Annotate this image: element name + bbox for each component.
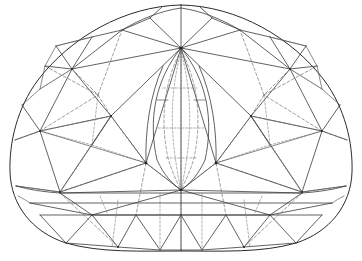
node-right-girdle [301,191,303,193]
node-left-girdle [59,191,61,193]
node-bottom-right [243,246,245,248]
node-left-mid [110,115,112,117]
node-bottom-left [117,246,119,248]
node-right-lower [321,130,323,132]
node-right-upper [289,68,291,70]
node-left-pavilion [145,162,148,165]
node-culet [180,189,183,192]
node-left-upper [71,68,73,70]
node-right-pavilion [215,162,218,165]
node-crown-apex [179,46,182,49]
gemstone-facet-diagram [0,0,362,261]
node-right-mid [250,115,252,117]
node-left-lower [39,130,41,132]
